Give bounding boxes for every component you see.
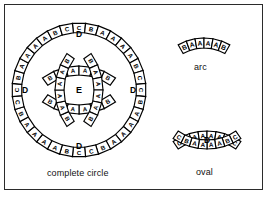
region-label-D: D bbox=[76, 29, 82, 39]
diagram-figure: CBAAAABCCBAAAABCCBAAAABCCBAAAABCBAAAABBA… bbox=[0, 0, 269, 200]
region-label-D: D bbox=[76, 141, 82, 151]
caption-oval: oval bbox=[196, 167, 213, 177]
region-label-D: D bbox=[204, 135, 210, 145]
shape-arc: BAAAAB bbox=[178, 38, 230, 54]
tile-label-C: C bbox=[138, 88, 145, 93]
tile-label-C: C bbox=[13, 87, 20, 92]
region-label-D: D bbox=[130, 85, 136, 95]
shape-oval: CBAAAABCCBAAAABCD bbox=[173, 131, 241, 149]
region-label-D: D bbox=[22, 85, 28, 95]
region-label-E: E bbox=[76, 85, 82, 95]
shape-complete-circle: CBAAAABCCBAAAABCCBAAAABCCBAAAABCBAAAABBA… bbox=[12, 23, 145, 156]
tile-label-A: A bbox=[205, 39, 211, 46]
tile-label-A: A bbox=[197, 39, 203, 46]
caption-complete-circle: complete circle bbox=[47, 168, 109, 178]
diagram-canvas: CBAAAABCCBAAAABCCBAAAABCCBAAAABCBAAAABBA… bbox=[0, 0, 269, 200]
caption-arc: arc bbox=[194, 62, 207, 72]
